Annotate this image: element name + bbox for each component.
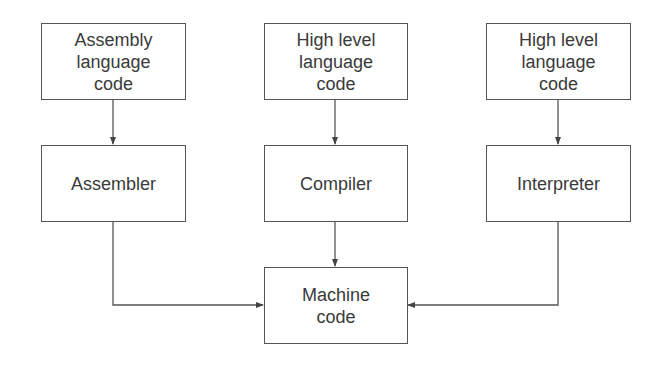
assembler-label: Assembler <box>71 173 156 195</box>
interpreter-label: Interpreter <box>517 173 600 195</box>
high-level-language-code-box-interpreter: High level language code <box>486 23 631 100</box>
machine-code-box: Machine code <box>264 267 408 344</box>
high-level-language-code-box-compiler: High level language code <box>264 23 408 100</box>
assembly-language-code-box: Assembly language code <box>41 23 186 100</box>
compiler-box: Compiler <box>264 145 408 222</box>
arrow-interpreter-to-machine <box>408 221 558 305</box>
compiler-label: Compiler <box>300 173 372 195</box>
arrow-assembler-to-machine <box>113 221 263 305</box>
assembler-box: Assembler <box>41 145 186 222</box>
high-level-language-code-label: High level language code <box>519 29 598 95</box>
high-level-language-code-label: High level language code <box>296 29 375 95</box>
interpreter-box: Interpreter <box>486 145 631 222</box>
assembly-language-code-label: Assembly language code <box>74 29 152 95</box>
machine-code-label: Machine code <box>302 284 370 328</box>
